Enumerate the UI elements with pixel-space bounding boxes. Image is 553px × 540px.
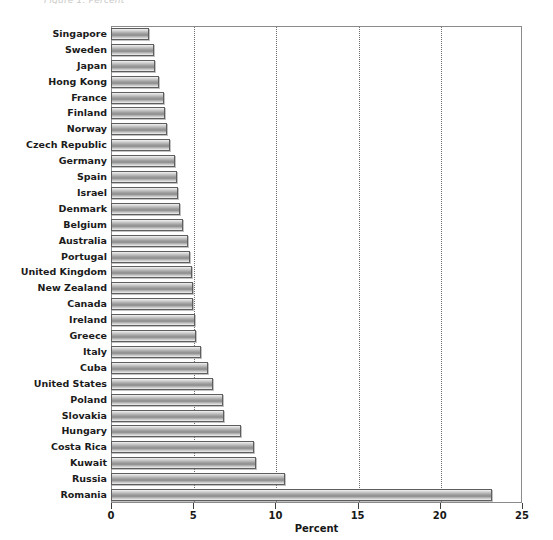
x-tick-mark bbox=[440, 503, 441, 509]
bar bbox=[111, 123, 167, 135]
x-tick-label: 15 bbox=[338, 510, 378, 521]
category-label: Romania bbox=[0, 490, 107, 500]
bar bbox=[111, 410, 224, 422]
bar bbox=[111, 378, 213, 390]
clipped-caption-text: Figure 1. Percent bbox=[44, 0, 124, 4]
category-label: Slovakia bbox=[0, 411, 107, 421]
category-label: Norway bbox=[0, 124, 107, 134]
bar bbox=[111, 219, 183, 231]
bar-chart: Figure 1. Percent SingaporeSwedenJapanHo… bbox=[0, 0, 553, 540]
bar bbox=[111, 489, 492, 501]
category-label: Belgium bbox=[0, 220, 107, 230]
bar bbox=[111, 282, 193, 294]
category-label: Portugal bbox=[0, 252, 107, 262]
category-label: Russia bbox=[0, 474, 107, 484]
bar bbox=[111, 76, 159, 88]
bar bbox=[111, 60, 155, 72]
category-label: Singapore bbox=[0, 29, 107, 39]
category-label: Canada bbox=[0, 299, 107, 309]
category-label: Sweden bbox=[0, 45, 107, 55]
category-label: Kuwait bbox=[0, 458, 107, 468]
x-tick-mark bbox=[275, 503, 276, 509]
category-label: United States bbox=[0, 379, 107, 389]
category-label: Poland bbox=[0, 395, 107, 405]
bar bbox=[111, 457, 256, 469]
x-tick-label: 5 bbox=[173, 510, 213, 521]
bar bbox=[111, 346, 201, 358]
bar bbox=[111, 298, 193, 310]
x-tick-mark bbox=[358, 503, 359, 509]
category-label: Hong Kong bbox=[0, 77, 107, 87]
bar bbox=[111, 394, 223, 406]
category-label: Finland bbox=[0, 108, 107, 118]
bar bbox=[111, 362, 208, 374]
bar bbox=[111, 473, 285, 485]
category-label: Cuba bbox=[0, 363, 107, 373]
category-label: New Zealand bbox=[0, 283, 107, 293]
bar bbox=[111, 92, 164, 104]
bar bbox=[111, 251, 190, 263]
bar bbox=[111, 44, 154, 56]
x-tick-mark bbox=[111, 503, 112, 509]
bar bbox=[111, 235, 188, 247]
bar bbox=[111, 314, 195, 326]
category-label: United Kingdom bbox=[0, 267, 107, 277]
bars-layer bbox=[111, 26, 522, 503]
category-label: Denmark bbox=[0, 204, 107, 214]
bar bbox=[111, 107, 165, 119]
category-label: Italy bbox=[0, 347, 107, 357]
bar bbox=[111, 441, 254, 453]
bar bbox=[111, 203, 180, 215]
x-tick-mark bbox=[193, 503, 194, 509]
x-tick-label: 25 bbox=[502, 510, 542, 521]
category-label: Australia bbox=[0, 236, 107, 246]
category-label: Germany bbox=[0, 156, 107, 166]
bar bbox=[111, 155, 175, 167]
category-label: France bbox=[0, 93, 107, 103]
bar bbox=[111, 28, 149, 40]
category-label: Greece bbox=[0, 331, 107, 341]
category-label: Spain bbox=[0, 172, 107, 182]
bar bbox=[111, 187, 178, 199]
bar bbox=[111, 171, 177, 183]
x-tick-mark bbox=[522, 503, 523, 509]
category-label: Japan bbox=[0, 61, 107, 71]
category-label: Costa Rica bbox=[0, 442, 107, 452]
x-tick-label: 0 bbox=[91, 510, 131, 521]
bar bbox=[111, 330, 196, 342]
x-tick-label: 10 bbox=[255, 510, 295, 521]
bar bbox=[111, 139, 170, 151]
bar bbox=[111, 266, 192, 278]
category-label: Ireland bbox=[0, 315, 107, 325]
x-tick-label: 20 bbox=[420, 510, 460, 521]
category-label: Israel bbox=[0, 188, 107, 198]
category-axis-labels: SingaporeSwedenJapanHong KongFranceFinla… bbox=[0, 26, 107, 503]
bar bbox=[111, 425, 241, 437]
category-label: Hungary bbox=[0, 426, 107, 436]
category-label: Czech Republic bbox=[0, 140, 107, 150]
x-axis-title: Percent bbox=[111, 523, 522, 534]
